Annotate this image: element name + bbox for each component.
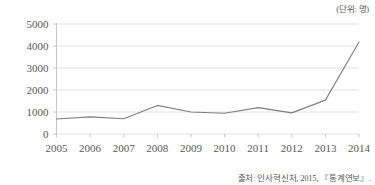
x-axis-tick-label: 2009 — [180, 142, 202, 154]
x-axis-tick-labels: 2005200620072008200920102011201220132014 — [0, 142, 375, 160]
x-axis-tick-label: 2013 — [314, 142, 336, 154]
x-axis-tick-label: 2011 — [247, 142, 269, 154]
x-axis-tick-label: 2012 — [281, 142, 303, 154]
unit-label: (단위: 명) — [336, 2, 369, 14]
y-axis-tick-label: 1000 — [27, 106, 50, 118]
chart-figure: (단위: 명) 010002000300040005000 2005200620… — [0, 0, 375, 185]
x-axis-tick-label: 2014 — [348, 142, 370, 154]
y-axis-tick-label: 0 — [43, 128, 49, 140]
y-axis-tick-label: 4000 — [27, 40, 50, 52]
y-axis-tick-labels: 010002000300040005000 — [27, 18, 50, 140]
x-axis — [57, 134, 360, 138]
y-axis-tick-label: 2000 — [27, 84, 50, 96]
y-axis-tick-label: 3000 — [27, 62, 50, 74]
x-axis-tick-label: 2006 — [79, 142, 101, 154]
x-axis-tick-label: 2007 — [113, 142, 135, 154]
x-axis-tick-label: 2010 — [214, 142, 236, 154]
x-axis-tick-label: 2008 — [146, 142, 168, 154]
data-series-line — [57, 42, 360, 119]
plot-area: 010002000300040005000 — [0, 14, 375, 144]
y-axis-tick-label: 5000 — [27, 18, 50, 30]
line-chart-svg: 010002000300040005000 — [0, 14, 375, 144]
x-axis-tick-label: 2005 — [46, 142, 68, 154]
y-axis — [53, 23, 57, 135]
source-note: 출처: 인사혁신처, 2015, 『통계연보』. — [238, 171, 371, 183]
